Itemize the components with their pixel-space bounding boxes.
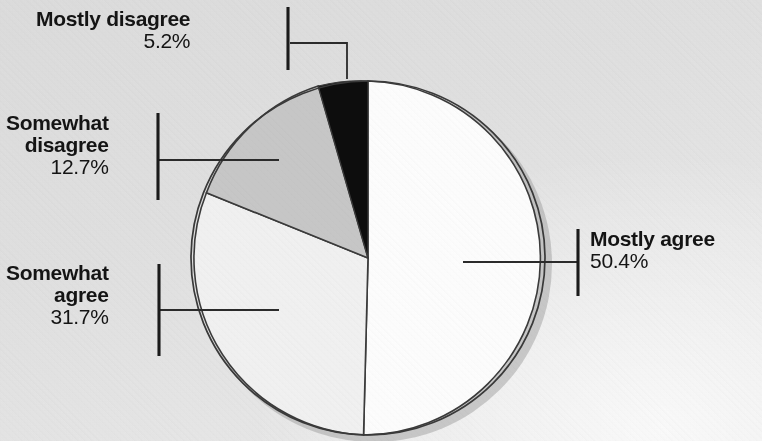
- pie-label-somewhat-disagree-name-1: Somewhat: [6, 112, 109, 134]
- pie-label-somewhat-agree: Somewhat agree 31.7%: [6, 262, 109, 327]
- pie-label-mostly-disagree-value: 5.2%: [36, 30, 190, 52]
- pie-label-somewhat-disagree-name-2: disagree: [6, 134, 109, 156]
- pie-slice-mostly-agree[interactable]: [364, 81, 541, 435]
- pie-label-somewhat-agree-name-2: agree: [6, 284, 109, 306]
- pie-label-mostly-agree-name: Mostly agree: [590, 228, 715, 250]
- pie-label-mostly-agree-value: 50.4%: [590, 250, 715, 272]
- pie-label-mostly-disagree: Mostly disagree 5.2%: [36, 8, 190, 52]
- pie-label-somewhat-disagree-value: 12.7%: [6, 156, 109, 178]
- pie-label-somewhat-disagree: Somewhat disagree 12.7%: [6, 112, 109, 177]
- leader-line-mostly-disagree: [290, 43, 347, 79]
- pie-label-somewhat-agree-name-1: Somewhat: [6, 262, 109, 284]
- pie-chart: [0, 0, 762, 441]
- pie-label-somewhat-agree-value: 31.7%: [6, 306, 109, 328]
- pie-label-mostly-disagree-name: Mostly disagree: [36, 8, 190, 30]
- pie-label-mostly-agree: Mostly agree 50.4%: [590, 228, 715, 272]
- chart-canvas: Mostly disagree 5.2% Somewhat disagree 1…: [0, 0, 762, 441]
